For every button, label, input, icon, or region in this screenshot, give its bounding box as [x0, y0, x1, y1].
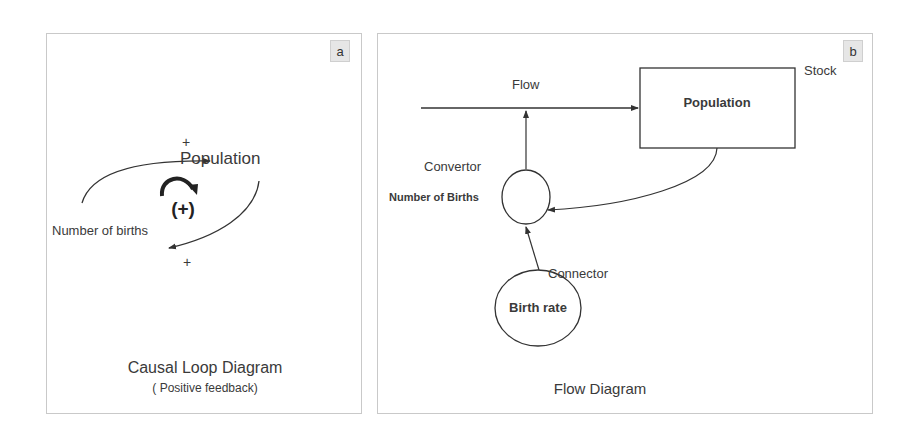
stock-label: Stock: [804, 63, 837, 78]
panel-b-title: Flow Diagram: [554, 380, 647, 397]
polarity-bottom: +: [183, 254, 191, 270]
loop-polarity: (+): [171, 198, 195, 220]
node-number-of-births: Number of births: [52, 223, 148, 238]
stock-name: Population: [683, 95, 750, 110]
flow-diagram-shapes: [378, 34, 874, 415]
convertor-label: Convertor: [424, 159, 481, 174]
connector-rate-to-convertor: [526, 227, 539, 270]
convertor-circle: [502, 170, 550, 224]
connector-label: Connector: [548, 266, 608, 281]
convertor-name: Number of Births: [389, 191, 479, 203]
causal-loop-panel: a + Population (+) Number of births + Ca…: [46, 33, 362, 414]
panel-a-title: Causal Loop Diagram: [128, 359, 283, 377]
flow-label: Flow: [512, 77, 539, 92]
panel-a-subtitle: ( Positive feedback): [152, 381, 257, 395]
node-population: Population: [180, 149, 260, 169]
loop-rotation-icon: [162, 179, 193, 196]
connector-stock-to-convertor: [548, 148, 717, 210]
polarity-top: +: [182, 134, 190, 150]
flow-diagram-panel: b Flow Stock Population Convertor Number…: [377, 33, 873, 414]
birth-rate-name: Birth rate: [509, 300, 567, 315]
